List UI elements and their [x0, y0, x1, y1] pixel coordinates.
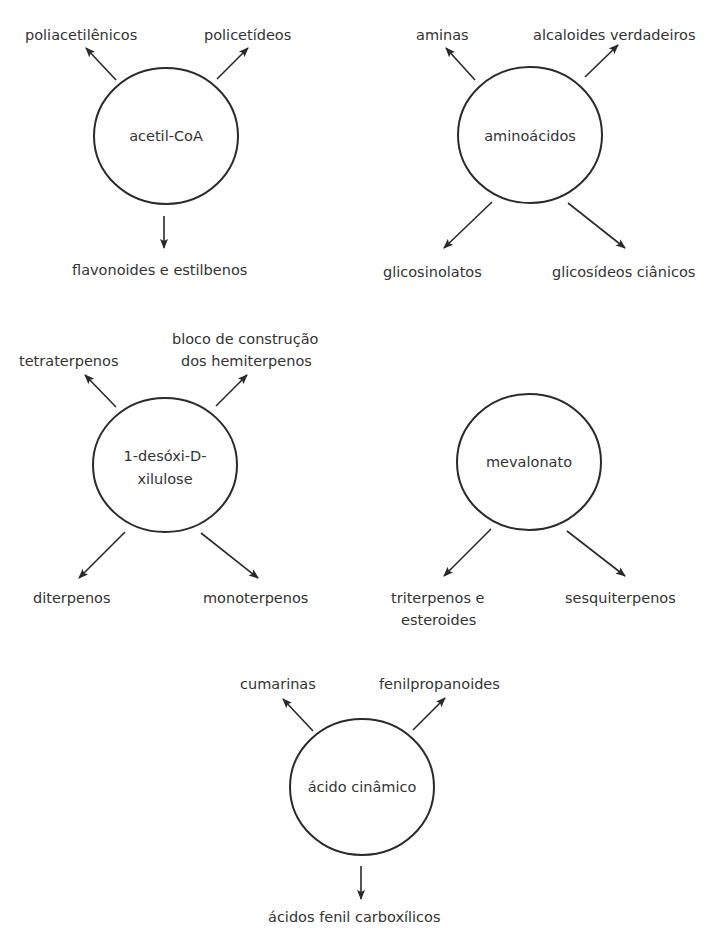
product-label: sesquiterpenos — [565, 590, 676, 606]
arrow-down-left-icon — [444, 529, 491, 576]
arrow-up-left-icon — [283, 699, 313, 731]
product-label: tetraterpenos — [19, 353, 118, 369]
node-circle — [93, 398, 237, 532]
product-label: glicosinolatos — [383, 264, 482, 280]
node-label: acetil-CoA — [129, 128, 203, 144]
arrow-up-right-icon — [217, 48, 248, 79]
product-label: aminas — [416, 27, 469, 43]
product-label: triterpenos e — [391, 590, 485, 606]
arrow-up-left-icon — [85, 375, 116, 407]
node-label: mevalonato — [486, 454, 572, 470]
product-label: diterpenos — [33, 590, 111, 606]
arrow-down-right-icon — [568, 203, 625, 248]
product-label: esteroides — [401, 612, 476, 628]
node-label: ácido cinâmico — [308, 779, 417, 795]
arrow-up-left-icon — [446, 48, 475, 80]
node-label: aminoácidos — [484, 128, 576, 144]
node-acido-cinamico: ácido cinâmico cumarinas fenilpropanoide… — [240, 676, 500, 925]
node-aminoacidos: aminoácidos aminas alcaloides verdadeiro… — [383, 27, 696, 280]
product-label: glicosídeos ciânicos — [552, 264, 695, 280]
product-label: ácidos fenil carboxílicos — [268, 909, 441, 925]
arrow-down-right-icon — [567, 531, 625, 576]
arrow-up-right-icon — [585, 45, 618, 77]
biosynthesis-diagram: acetil-CoA poliacetilênicos policetídeos… — [0, 0, 724, 938]
arrow-up-right-icon — [413, 698, 445, 730]
arrow-down-left-icon — [444, 202, 492, 248]
node-mevalonato: mevalonato triterpenos e esteroides sesq… — [391, 394, 676, 628]
arrow-down-left-icon — [79, 532, 125, 578]
product-label: monoterpenos — [203, 590, 308, 606]
arrow-down-right-icon — [216, 375, 247, 406]
node-label: 1-desóxi-D- — [124, 448, 207, 464]
arrow-up-left-icon — [86, 48, 116, 80]
product-label: flavonoides e estilbenos — [72, 262, 247, 278]
product-label: fenilpropanoides — [379, 676, 500, 692]
product-label: policetídeos — [204, 27, 291, 43]
arrow-down-right-icon — [201, 533, 258, 578]
product-label: bloco de construção — [172, 331, 319, 347]
node-desoxi-xilulose: 1-desóxi-D- xilulose tetraterpenos bloco… — [19, 331, 319, 606]
node-acetil-coa: acetil-CoA poliacetilênicos policetídeos… — [25, 27, 291, 278]
node-label: xilulose — [137, 471, 192, 487]
product-label: poliacetilênicos — [25, 27, 137, 43]
product-label: cumarinas — [240, 676, 316, 692]
product-label: dos hemiterpenos — [181, 353, 312, 369]
product-label: alcaloides verdadeiros — [533, 27, 696, 43]
